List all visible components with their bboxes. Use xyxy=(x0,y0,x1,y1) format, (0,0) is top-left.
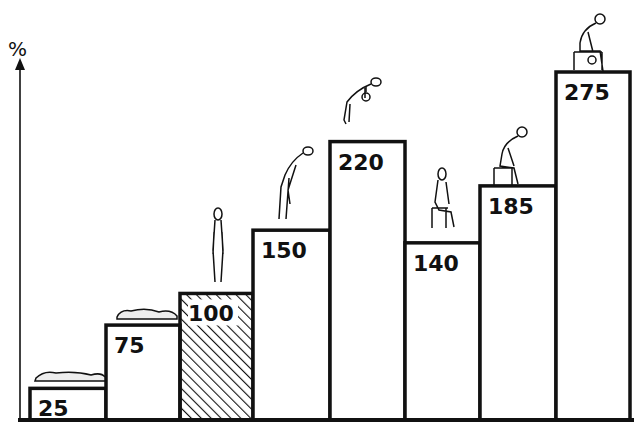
bar-value-label: 275 xyxy=(564,80,610,105)
figure-side-lying-icon xyxy=(117,309,177,319)
figure-bent-forward-icon xyxy=(279,147,313,219)
posture-pressure-chart: % 2575100150220140185275 xyxy=(0,0,642,439)
bar-value-label: 150 xyxy=(261,238,307,263)
figure-lying-icon xyxy=(35,372,105,381)
bar-value-label: 140 xyxy=(413,251,459,276)
figure-sitting-icon xyxy=(432,168,454,228)
figure-standing-icon xyxy=(213,208,223,282)
y-axis: % xyxy=(8,37,27,420)
bar-value-label: 100 xyxy=(188,301,234,326)
bar-220 xyxy=(330,142,405,420)
bars: 2575100150220140185275 xyxy=(30,72,630,421)
bar-value-label: 75 xyxy=(114,333,145,358)
bar-value-label: 25 xyxy=(38,396,69,421)
figure-sitting-lifting-icon xyxy=(574,14,605,71)
bar-185 xyxy=(480,186,556,420)
figure-sitting-bent-icon xyxy=(494,127,527,186)
bar-value-label: 185 xyxy=(488,194,534,219)
y-axis-label: % xyxy=(8,37,27,61)
figure-lifting-icon xyxy=(344,78,381,124)
bar-value-label: 220 xyxy=(338,150,384,175)
bar-275 xyxy=(556,72,630,420)
